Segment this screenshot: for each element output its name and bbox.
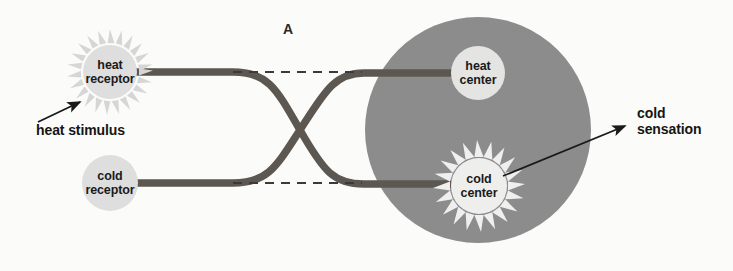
node-heat-center — [451, 46, 505, 100]
callout-heat-stimulus: heat stimulus — [36, 122, 125, 138]
panel-letter-a: A — [283, 21, 293, 37]
node-heat-receptor — [83, 45, 137, 99]
node-cold-center — [451, 158, 507, 214]
node-cold-receptor — [82, 155, 138, 211]
callout-cold-sensation: cold sensation — [637, 105, 701, 137]
thermoreception-diagram: A heat receptor cold receptor heat cente… — [0, 0, 733, 271]
heat-stimulus-arrow — [38, 102, 80, 122]
